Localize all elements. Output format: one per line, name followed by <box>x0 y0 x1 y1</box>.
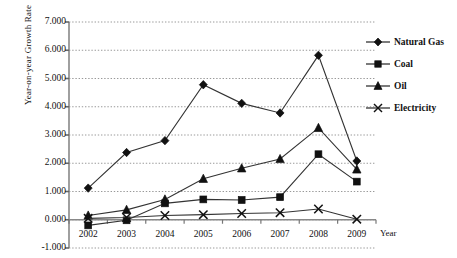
legend-item-coal[interactable]: Coal <box>365 58 413 70</box>
data-point-marker <box>238 197 245 204</box>
y-tick-label: 0.000 <box>20 215 66 224</box>
series-natural-gas <box>84 51 361 192</box>
data-point-marker <box>315 151 322 158</box>
data-point-marker <box>375 61 381 67</box>
legend-item-oil[interactable]: Oil <box>365 80 407 92</box>
data-point-marker <box>161 136 169 144</box>
data-point-marker <box>200 196 207 203</box>
series-line <box>88 55 357 188</box>
legend-label: Natural Gas <box>394 37 444 47</box>
y-tick-label: 1.000 <box>20 187 66 196</box>
legend-label: Electricity <box>394 103 436 113</box>
x-tick-label: 2006 <box>225 229 259 239</box>
data-point-marker <box>353 178 360 185</box>
y-tick-label: 5.000 <box>20 74 66 83</box>
data-point-marker <box>314 51 322 59</box>
x-tick-label: 2009 <box>340 229 374 239</box>
y-axis-tick-labels: 7.0006.0005.0004.0003.0002.0001.0000.000… <box>18 0 66 258</box>
x-tick-label: 2003 <box>110 229 144 239</box>
legend-marker-diamond-icon <box>365 36 391 48</box>
legend-item-natural-gas[interactable]: Natural Gas <box>365 36 444 48</box>
data-point-marker <box>276 109 284 117</box>
x-tick-label: 2008 <box>301 229 335 239</box>
legend-item-electricity[interactable]: Electricity <box>365 102 436 114</box>
data-point-marker <box>199 81 207 89</box>
x-tick-label: 2005 <box>186 229 220 239</box>
data-point-marker <box>161 195 169 203</box>
legend-label: Coal <box>394 59 413 69</box>
data-point-marker <box>314 123 322 131</box>
data-point-marker <box>276 154 284 162</box>
data-point-marker <box>277 194 284 201</box>
y-tick-label: 2.000 <box>20 158 66 167</box>
series-line <box>88 128 357 216</box>
x-tick-label: 2007 <box>263 229 297 239</box>
data-point-marker <box>374 38 382 46</box>
legend-marker-triangle-icon <box>365 80 391 92</box>
series-oil <box>84 123 361 219</box>
data-point-marker <box>353 157 361 165</box>
y-tick-label: 4.000 <box>20 102 66 111</box>
y-tick-label: 6.000 <box>20 45 66 54</box>
x-axis-title: Year <box>380 228 397 238</box>
y-tick-label: -1.000 <box>20 243 66 252</box>
y-tick-label: 7.000 <box>20 17 66 26</box>
x-tick-label: 2002 <box>71 229 105 239</box>
x-tick-label: 2004 <box>148 229 182 239</box>
legend-marker-cross-icon <box>365 102 391 114</box>
legend-label: Oil <box>394 81 407 91</box>
line-chart: Year-on-year Growth Rate 7.0006.0005.000… <box>0 0 457 258</box>
legend-marker-square-icon <box>365 58 391 70</box>
y-tick-label: 3.000 <box>20 130 66 139</box>
